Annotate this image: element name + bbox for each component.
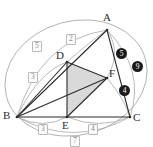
vertex-label-B: B [3, 110, 10, 121]
vertex-dot-C [129, 116, 132, 119]
vertex-dot-A [106, 29, 109, 32]
diagram-canvas [0, 0, 153, 147]
geometry-diagram: A B C D E F 2 5 3 3 4 7 5 9 4 [0, 0, 153, 147]
arc-label-BD: 5 [32, 41, 42, 52]
arc-label-AD: 2 [66, 34, 76, 45]
arc-F-to-C [107, 78, 130, 117]
vertex-label-F: F [109, 68, 115, 79]
badge-AF: 5 [116, 48, 127, 59]
arc-E-to-C [67, 117, 130, 124]
arc-label-BC: 7 [70, 136, 80, 147]
badge-outer: 9 [132, 61, 143, 72]
segment-BD [17, 62, 67, 117]
arc-label-EC: 4 [88, 124, 98, 135]
vertex-label-A: A [103, 12, 111, 23]
arc-label-BD-inner: 3 [28, 72, 38, 83]
vertex-label-C: C [133, 112, 140, 123]
vertex-dot-F [106, 77, 109, 80]
arc-label-BE: 3 [38, 124, 48, 135]
vertex-dot-B [16, 116, 19, 119]
vertex-dot-D [66, 61, 69, 64]
vertex-label-D: D [56, 50, 64, 61]
vertex-label-E: E [62, 120, 69, 131]
vertex-dot-E [66, 116, 69, 119]
badge-FC: 4 [119, 85, 130, 96]
